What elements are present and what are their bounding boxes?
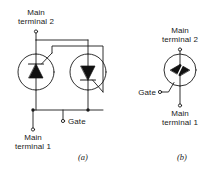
circuit-b [158,48,196,107]
label-main-terminal-2-a: Main terminal 2 [4,8,68,26]
label-main-terminal-1-a: Main terminal 1 [2,133,64,151]
caption-a: (a) [78,152,88,162]
node-dot-gate-a [61,119,64,122]
circuit-a [18,30,106,131]
scr-left-gate-lead [42,53,53,64]
caption-b: (b) [177,152,187,162]
scr-right-gate-lead [93,80,104,92]
node-dot-mt1-b [178,104,181,107]
scr-left-arrow-icon [29,64,43,78]
scr-right-arrow-icon [81,66,95,80]
gate-link-left-a [52,46,103,92]
label-gate-a: Gate [68,117,86,126]
node-dot-mt2-a [34,30,37,33]
node-dot-mt1-a [31,128,34,131]
node-dot-gate-b [158,90,161,93]
junction-dot-right-a [86,108,89,111]
node-dot-mt2-b [178,48,181,51]
figure-root: Main terminal 2 Main terminal 1 Gate (a)… [0,0,215,173]
label-main-terminal-1-b: Main terminal 1 [148,109,212,127]
label-main-terminal-2-b: Main terminal 2 [148,26,212,44]
label-gate-b: Gate [116,88,156,97]
